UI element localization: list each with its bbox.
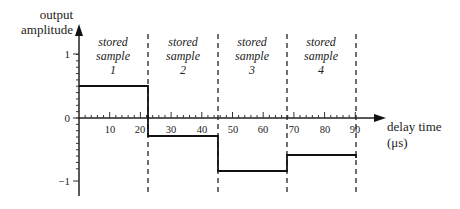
svg-text:60: 60 [258, 124, 269, 135]
x-minor-ticks [85, 112, 355, 118]
x-axis-unit: (μs) [387, 135, 408, 150]
svg-text:3: 3 [248, 63, 255, 77]
svg-text:2: 2 [180, 63, 186, 77]
step-chart: 1 0 −1 output amplitude 10 20 30 40 50 6… [0, 0, 460, 209]
svg-text:1: 1 [110, 63, 116, 77]
svg-text:4: 4 [318, 63, 324, 77]
svg-text:30: 30 [166, 124, 177, 135]
y-axis-arrow-icon [75, 24, 83, 36]
svg-text:stored: stored [168, 35, 199, 49]
svg-text:20: 20 [135, 124, 146, 135]
svg-text:sample: sample [304, 49, 339, 63]
x-axis-arrow-icon [374, 114, 386, 122]
svg-text:80: 80 [320, 124, 331, 135]
svg-text:stored: stored [98, 35, 129, 49]
svg-text:50: 50 [228, 124, 239, 135]
y-axis-label-line2: amplitude [21, 22, 73, 37]
svg-text:sample: sample [96, 49, 131, 63]
x-tick-labels: 10 20 30 40 50 60 70 80 90 [105, 124, 361, 135]
y-tick-label-neg1: −1 [58, 175, 70, 187]
y-tick-label-1: 1 [65, 48, 71, 60]
svg-text:sample: sample [235, 49, 270, 63]
svg-text:sample: sample [166, 49, 201, 63]
segment-annotations: stored sample 1 stored sample 2 stored s… [96, 35, 339, 77]
svg-text:stored: stored [306, 35, 337, 49]
y-axis-label-line1: output [40, 7, 74, 22]
svg-text:90: 90 [350, 124, 361, 135]
svg-text:70: 70 [289, 124, 300, 135]
svg-text:40: 40 [197, 124, 208, 135]
svg-text:stored: stored [237, 35, 268, 49]
x-axis-label: delay time [387, 119, 442, 134]
svg-text:10: 10 [105, 124, 116, 135]
y-tick-label-0: 0 [65, 112, 71, 124]
